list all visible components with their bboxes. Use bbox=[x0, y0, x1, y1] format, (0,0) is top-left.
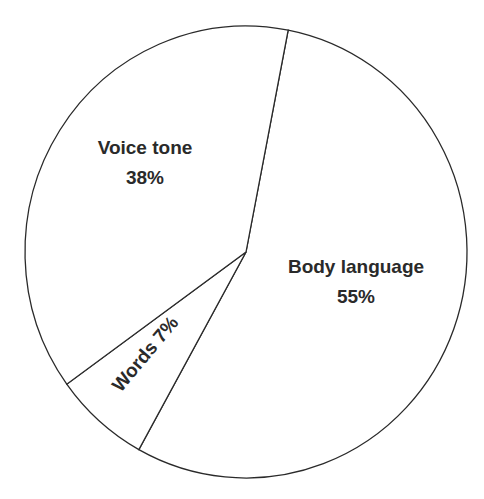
value-voice-tone: 38% bbox=[126, 167, 164, 188]
label-body-language: Body language bbox=[288, 256, 424, 277]
label-voice-tone: Voice tone bbox=[98, 137, 193, 158]
pie-chart: Body language 55% Voice tone 38% Words7% bbox=[0, 0, 484, 499]
value-body-language: 55% bbox=[337, 286, 375, 307]
